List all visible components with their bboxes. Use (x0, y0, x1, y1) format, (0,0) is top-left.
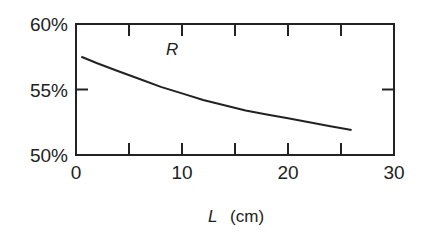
x-tick-label: 30 (383, 162, 404, 183)
y-tick-label: 50% (30, 145, 68, 166)
x-tick-label: 20 (277, 162, 298, 183)
x-axis-title: L (cm) (208, 207, 264, 226)
x-tick-label: 10 (171, 162, 192, 183)
y-tick-labels: 50%55%60% (30, 14, 68, 166)
series-line-r (81, 57, 351, 130)
y-tick-label: 55% (30, 80, 68, 101)
axis-ticks (76, 24, 394, 155)
y-tick-label: 60% (30, 14, 68, 35)
x-tick-label: 0 (71, 162, 82, 183)
x-axis-variable: L (208, 207, 217, 226)
x-axis-unit: (cm) (230, 207, 264, 226)
plot-frame (76, 24, 394, 155)
plot-border (76, 24, 394, 155)
series-label-r: R (166, 40, 178, 59)
chart: 0102030 50%55%60% R L (cm) (0, 0, 425, 239)
x-tick-labels: 0102030 (71, 162, 405, 183)
